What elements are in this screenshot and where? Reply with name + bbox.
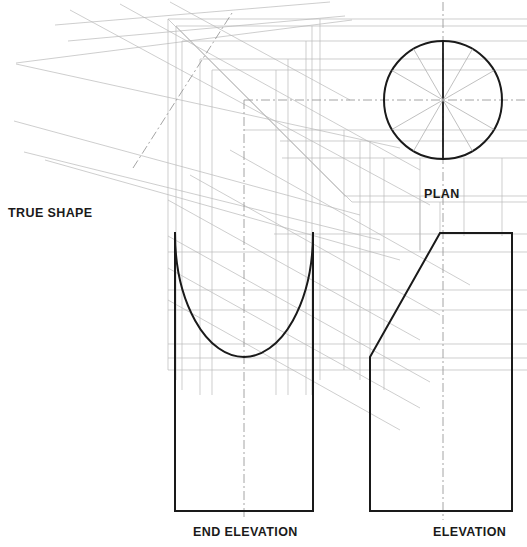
aux-projector-6: [24, 152, 380, 240]
object-lines-group: [175, 41, 512, 511]
plan-label: PLAN: [424, 187, 460, 201]
aux-projector-1: [55, 2, 330, 25]
aux-projector-7: [45, 160, 400, 260]
plan-spoke-330: [443, 100, 494, 130]
aux-projector-9: [120, 4, 420, 170]
aux-projector-5: [14, 121, 360, 215]
drawing-canvas: TRUE SHAPE PLAN END ELEVATION ELEVATION: [0, 0, 527, 547]
plan-spoke-30: [443, 71, 494, 101]
plan-spoke-150: [392, 71, 443, 101]
aux-projector-3: [16, 20, 352, 63]
aux-projector-4: [16, 64, 400, 148]
plan-spoke-210: [392, 100, 443, 130]
end-elevation-label: END ELEVATION: [193, 525, 298, 539]
aux-projector-10: [170, 2, 350, 100]
plan-spoke-300: [443, 100, 473, 151]
plan-spoke-240: [414, 100, 444, 151]
true-shape-centre-line: [133, 13, 232, 168]
aux-diagonal-3: [168, 268, 420, 408]
elevation-label: ELEVATION: [433, 525, 506, 539]
aux-projector-8: [70, 10, 430, 205]
miter-line-45-b: [176, 26, 352, 202]
technical-drawing-svg: [0, 0, 527, 547]
plan-spoke-120: [414, 49, 444, 100]
plan-spoke-60: [443, 49, 473, 100]
true-shape-label: TRUE SHAPE: [8, 206, 93, 220]
aux-projector-2: [68, 16, 345, 41]
aux-diagonal-4: [168, 300, 400, 430]
elevation-outline: [370, 233, 512, 511]
centre-lines-group: [133, 2, 527, 520]
